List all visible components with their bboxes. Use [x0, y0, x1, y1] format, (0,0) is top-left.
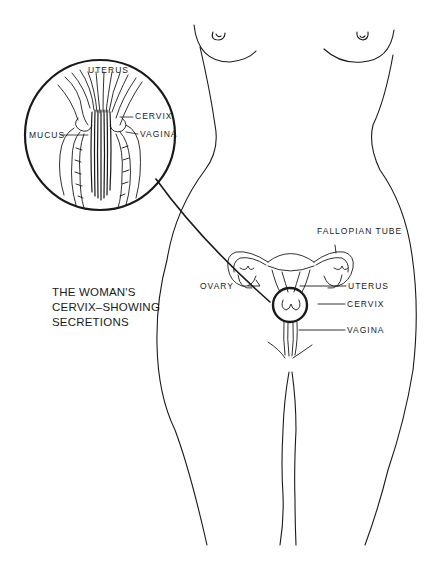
label-cervix: CERVIX	[347, 300, 385, 309]
caption-line-1: THE WOMAN'S	[52, 285, 160, 300]
label-vagina: VAGINA	[347, 326, 385, 335]
reproductive-organs-drawing	[228, 245, 354, 358]
caption-line-3: SECRETIONS	[52, 315, 160, 330]
inset-label-cervix: CERVIX	[135, 112, 173, 121]
caption-line-2: CERVIX–SHOWING	[52, 300, 160, 315]
breasts-drawing	[194, 25, 394, 62]
label-uterus: UTERUS	[348, 282, 389, 291]
label-ovary: OVARY	[200, 282, 234, 291]
inset-label-mucus: MUCUS	[29, 131, 65, 140]
body-outline	[157, 47, 416, 545]
inset-label-vagina: VAGINA	[140, 130, 178, 139]
inset-label-uterus: UTERUS	[88, 66, 129, 75]
label-fallopian-tube: FALLOPIAN TUBE	[317, 227, 402, 236]
cervix-highlight-circle	[273, 288, 307, 322]
figure-caption: THE WOMAN'S CERVIX–SHOWING SECRETIONS	[52, 285, 160, 330]
